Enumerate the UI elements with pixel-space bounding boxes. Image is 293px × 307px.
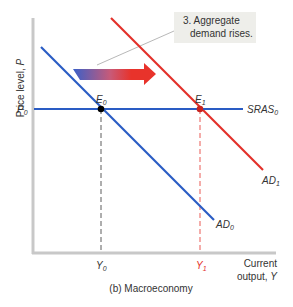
y0-tick-label: Y0 (96, 260, 107, 272)
e0-label: E0 (96, 94, 107, 106)
e1-point (197, 106, 204, 113)
ad1-label: AD1 (261, 175, 280, 187)
annotation-leader-line (97, 31, 174, 65)
e0-point (98, 106, 105, 113)
ad0-label: AD0 (215, 219, 234, 231)
annotation-line2: demand rises. (190, 28, 253, 39)
sras0-label: SRAS0 (247, 104, 278, 116)
x-axis-label-line1: Current (244, 258, 278, 269)
p0-tick-label: P0 (17, 104, 28, 116)
annotation-line1: 3. Aggregate (183, 15, 240, 26)
e1-label: E1 (195, 94, 206, 106)
macro-chart: 3. Aggregate demand rises. Price level, … (0, 0, 293, 307)
chart-caption: (b) Macroeconomy (109, 283, 192, 294)
x-axis-label-line2: output, Y (237, 271, 278, 282)
y1-tick-label: Y1 (196, 260, 207, 272)
shift-arrow-icon (73, 63, 156, 85)
